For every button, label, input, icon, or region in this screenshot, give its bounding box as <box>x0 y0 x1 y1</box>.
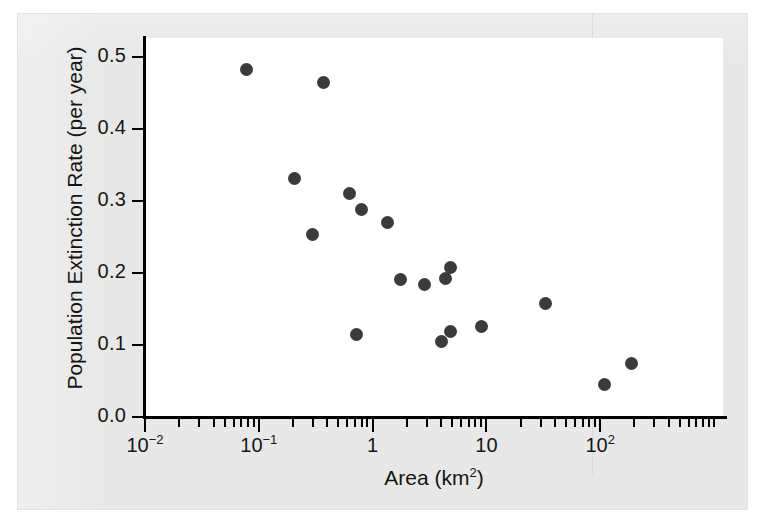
x-axis-spine <box>143 416 727 419</box>
x-major-tick-100 <box>599 419 601 432</box>
x-minor-tick-0.04 <box>213 419 215 427</box>
x-minor-tick-600 <box>688 419 690 427</box>
x-minor-tick-0.05 <box>224 419 226 427</box>
x-major-tick-0.1 <box>258 419 260 432</box>
x-minor-tick-0.06 <box>233 419 235 427</box>
x-minor-tick-0.6000000000000001 <box>346 419 348 427</box>
x-minor-tick-0.7000000000000001 <box>354 419 356 427</box>
x-tick-label-base: 10 <box>585 434 607 456</box>
x-axis-title-superscript: 2 <box>469 465 476 480</box>
x-tick-label-base: 10 <box>126 434 148 456</box>
x-minor-tick-0.5 <box>337 419 339 427</box>
x-tick-label-102: 102 <box>585 434 614 457</box>
x-tick-label-exponent: 2 <box>608 432 615 447</box>
x-minor-tick-30 <box>540 419 542 427</box>
x-minor-tick-0.09 <box>253 419 255 427</box>
x-minor-tick-200 <box>633 419 635 427</box>
x-minor-tick-70 <box>582 419 584 427</box>
data-point <box>394 273 407 286</box>
x-minor-tick-0.30000000000000004 <box>312 419 314 427</box>
x-minor-tick-800 <box>702 419 704 427</box>
x-major-tick-0.01 <box>144 419 146 432</box>
x-minor-tick-40 <box>554 419 556 427</box>
x-tick-label-base: 1 <box>367 434 378 456</box>
figure-container: 0.50.40.30.20.10.0 10−210−1110102 Popula… <box>0 0 765 523</box>
x-tick-label-base: 10 <box>475 434 497 456</box>
x-minor-tick-5 <box>451 419 453 427</box>
x-tick-label-10: 10 <box>475 434 497 457</box>
y-tick-0.5 <box>132 56 143 58</box>
x-minor-tick-50 <box>565 419 567 427</box>
x-minor-tick-80 <box>588 419 590 427</box>
data-point <box>317 76 330 89</box>
data-point <box>475 320 488 333</box>
data-point <box>350 328 363 341</box>
x-tick-label-exponent: −2 <box>149 432 164 447</box>
x-minor-tick-0.03 <box>198 419 200 427</box>
x-axis-title-close: ) <box>477 466 484 489</box>
data-point <box>288 172 301 185</box>
x-minor-tick-4 <box>440 419 442 427</box>
x-minor-tick-0.07 <box>240 419 242 427</box>
x-tick-label-10-2: 10−2 <box>126 434 163 457</box>
x-minor-tick-9 <box>480 419 482 427</box>
x-minor-tick-0.9 <box>366 419 368 427</box>
x-minor-tick-90 <box>594 419 596 427</box>
x-minor-tick-500 <box>679 419 681 427</box>
data-point <box>418 278 431 291</box>
x-minor-tick-1000 <box>713 419 715 427</box>
y-tick-0.0 <box>132 416 143 418</box>
x-major-tick-1 <box>372 419 374 432</box>
y-axis-spine <box>143 36 146 419</box>
x-tick-label-10-1: 10−1 <box>240 434 277 457</box>
y-tick-0.2 <box>132 272 143 274</box>
x-minor-tick-0.2 <box>292 419 294 427</box>
x-minor-tick-0.4 <box>326 419 328 427</box>
x-minor-tick-6 <box>460 419 462 427</box>
data-point <box>381 216 394 229</box>
x-minor-tick-0.02 <box>178 419 180 427</box>
x-axis-title-text: Area (km <box>384 466 469 489</box>
x-minor-tick-0.8 <box>361 419 363 427</box>
x-minor-tick-60 <box>574 419 576 427</box>
x-minor-tick-0.08 <box>247 419 249 427</box>
y-tick-0.3 <box>132 200 143 202</box>
y-tick-0.4 <box>132 128 143 130</box>
x-minor-tick-900 <box>708 419 710 427</box>
x-tick-label-exponent: −1 <box>263 432 278 447</box>
x-minor-tick-7 <box>468 419 470 427</box>
x-axis-title: Area (km2) <box>145 466 723 490</box>
x-minor-tick-700 <box>695 419 697 427</box>
x-minor-tick-20 <box>520 419 522 427</box>
x-tick-label-base: 10 <box>240 434 262 456</box>
x-major-tick-10 <box>485 419 487 432</box>
x-minor-tick-300 <box>653 419 655 427</box>
data-point <box>598 378 611 391</box>
x-minor-tick-400 <box>668 419 670 427</box>
x-minor-tick-8 <box>474 419 476 427</box>
data-point <box>439 272 452 285</box>
y-tick-0.1 <box>132 344 143 346</box>
x-minor-tick-2 <box>406 419 408 427</box>
data-point <box>539 297 552 310</box>
x-minor-tick-3 <box>426 419 428 427</box>
y-axis-title: Population Extinction Rate (per year) <box>63 8 87 428</box>
x-tick-label-1: 1 <box>367 434 378 457</box>
